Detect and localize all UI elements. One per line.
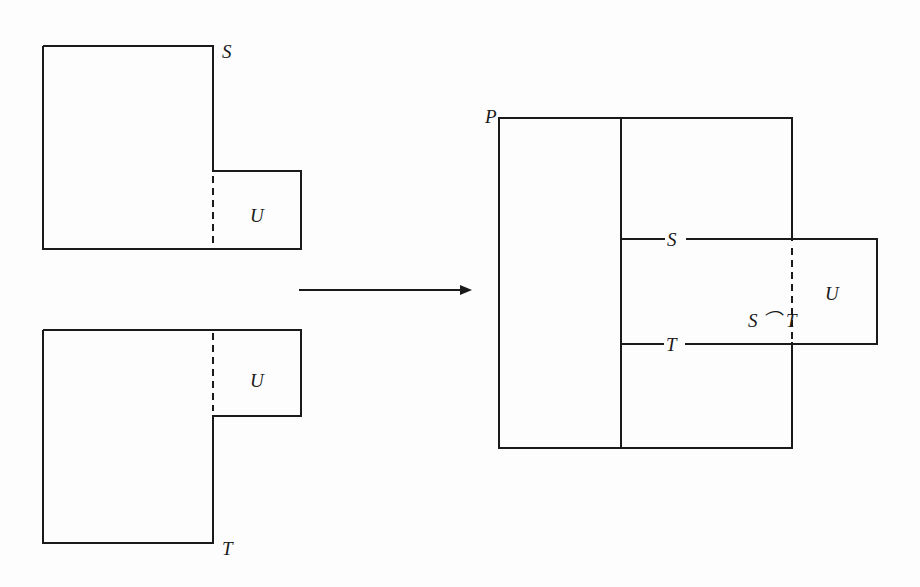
- shape-s: S U: [43, 41, 301, 249]
- shape-p-t-line-label: T: [666, 334, 678, 355]
- diagram-canvas: S U T U P S T S ⌒ T U: [0, 0, 920, 587]
- shape-p-label: P: [484, 106, 497, 127]
- shape-p-region-u-label: U: [825, 283, 840, 304]
- shape-t-outline: [43, 330, 301, 543]
- shape-t-region-u-label: U: [250, 370, 265, 391]
- shape-s-label: S: [222, 41, 232, 62]
- shape-p-intersection-label: S ⌒ T: [748, 310, 798, 331]
- shape-p-s-line-label: S: [667, 229, 677, 250]
- shape-t: T U: [43, 330, 301, 559]
- shape-s-region-u-label: U: [250, 205, 265, 226]
- shape-p-outer-rect: [499, 118, 792, 448]
- arrow-right-icon: [299, 285, 472, 295]
- shape-p: P S T S ⌒ T U: [484, 106, 877, 448]
- shape-t-label: T: [222, 538, 234, 559]
